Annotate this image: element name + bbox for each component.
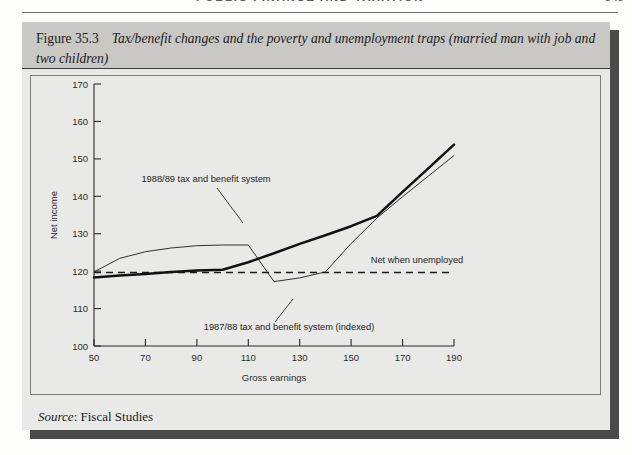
figure-title: Tax/benefit changes and the poverty and … [36,31,595,66]
x-tick-90: 90 [192,352,203,363]
x-axis-ticks [94,339,454,346]
annotation-net-when-unemployed: Net when unemployed [371,255,464,265]
plot-frame: 170 160 150 140 130 120 110 100 [30,75,601,395]
header-rule [22,12,618,13]
y-tick-140: 140 [72,191,88,202]
annotation-net-when-unemployed-label: Net when unemployed [371,255,464,265]
y-tick-100: 100 [72,341,88,352]
y-tick-130: 130 [72,228,88,239]
annotation-1988-89-label: 1988/89 tax and benefit system [141,174,270,184]
figure-body: 170 160 150 140 130 120 110 100 [22,69,610,430]
y-tick-160: 160 [72,116,88,127]
running-header-text: PUBLIC FINANCE AND TAXATION [196,0,424,3]
figure-source-value: : Fiscal Studies [74,409,153,424]
x-tick-170: 170 [395,352,411,363]
x-tick-190: 190 [446,352,462,363]
figure-number: Figure 35.3 [36,31,99,46]
x-tick-130: 130 [292,352,308,363]
annotation-1988-89: 1988/89 tax and benefit system [141,174,270,223]
x-axis-title: Gross earnings [242,372,307,383]
figure-shadow-bottom [30,430,619,439]
y-tick-150: 150 [72,153,88,164]
y-tick-170: 170 [72,79,88,90]
y-axis-tick-labels: 170 160 150 140 130 120 110 100 [72,79,88,352]
figure-shadow-right [610,30,619,438]
x-tick-110: 110 [241,352,256,363]
annotation-1987-88: 1987/88 tax and benefit system (indexed) [204,299,375,332]
figure-box: Figure 35.3Tax/benefit changes and the p… [22,22,610,430]
x-tick-150: 150 [343,352,359,363]
x-tick-50: 50 [89,352,100,363]
y-axis-title: Net income [48,191,59,239]
y-tick-110: 110 [73,303,88,314]
y-axis-ticks [94,84,101,346]
x-axis-tick-labels: 50 70 90 110 130 150 170 190 [89,352,462,363]
x-tick-70: 70 [140,352,151,363]
annotation-1987-88-label: 1987/88 tax and benefit system (indexed) [204,322,375,332]
figure-caption: Figure 35.3Tax/benefit changes and the p… [36,29,598,69]
line-chart: 170 160 150 140 130 120 110 100 [31,76,602,396]
figure-caption-band: Figure 35.3Tax/benefit changes and the p… [22,22,610,69]
figure-source: Source: Fiscal Studies [38,409,153,425]
y-tick-120: 120 [72,266,88,277]
figure-source-label: Source [38,409,74,424]
page-folio-number: 343 [605,0,624,3]
